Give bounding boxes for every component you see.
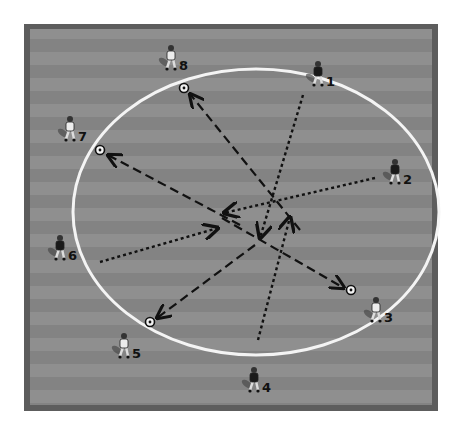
player-shirt <box>250 373 258 382</box>
player-shirt <box>314 67 322 76</box>
player-shirt <box>391 165 399 174</box>
player-number: 1 <box>326 74 335 89</box>
player-shirt <box>120 339 128 348</box>
drill-diagram: 12345678 <box>0 0 458 425</box>
player-number: 3 <box>384 310 393 325</box>
player-shirt <box>66 122 74 131</box>
ball-icon <box>347 286 356 295</box>
ball-icon <box>146 318 155 327</box>
player-number: 4 <box>262 380 271 395</box>
player-shirt <box>372 303 380 312</box>
player-number: 8 <box>179 58 188 73</box>
player-number: 6 <box>68 248 77 263</box>
player-number: 5 <box>132 346 141 361</box>
player-number: 7 <box>78 129 87 144</box>
player-shirt <box>167 51 175 60</box>
ball-icon <box>180 84 189 93</box>
player-shirt <box>56 241 64 250</box>
player-number: 2 <box>403 172 412 187</box>
ball-icon <box>96 146 105 155</box>
